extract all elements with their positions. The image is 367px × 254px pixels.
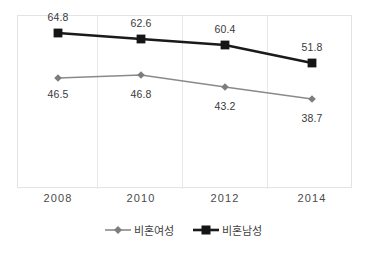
data-label-female-2014: 38.7	[292, 112, 332, 124]
chart-legend: 비혼여성 비혼남성	[0, 222, 367, 238]
x-axis-label-2014: 2014	[282, 192, 342, 204]
data-label-female-2012: 43.2	[205, 100, 245, 112]
series-line-female	[58, 75, 312, 99]
legend-item-male[interactable]: 비혼남성	[193, 222, 263, 238]
data-label-male-2010: 62.6	[121, 17, 161, 29]
data-label-male-2014: 51.8	[292, 41, 332, 53]
x-axis-label-2010: 2010	[111, 192, 171, 204]
series-layer	[0, 0, 367, 254]
legend-label-female: 비혼여성	[134, 222, 175, 238]
data-label-female-2010: 46.8	[121, 88, 161, 100]
diamond-marker-icon	[105, 224, 131, 236]
square-marker-icon	[193, 224, 219, 236]
legend-item-female[interactable]: 비혼여성	[105, 222, 175, 238]
series-line-male	[58, 33, 312, 63]
data-label-male-2012: 60.4	[205, 23, 245, 35]
data-label-female-2008: 46.5	[38, 88, 78, 100]
x-axis-label-2008: 2008	[28, 192, 88, 204]
line-chart: 64.8 62.6 60.4 51.8 46.5 46.8 43.2 38.7 …	[0, 0, 367, 254]
legend-label-male: 비혼남성	[222, 222, 263, 238]
data-label-male-2008: 64.8	[38, 11, 78, 23]
x-axis-label-2012: 2012	[195, 192, 255, 204]
